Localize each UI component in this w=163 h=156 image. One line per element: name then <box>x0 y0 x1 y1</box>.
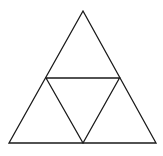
triangle-diagram <box>0 0 163 156</box>
outer-triangle <box>9 11 156 143</box>
inner-inverted-triangle <box>46 78 120 143</box>
diagram-canvas <box>0 0 163 156</box>
